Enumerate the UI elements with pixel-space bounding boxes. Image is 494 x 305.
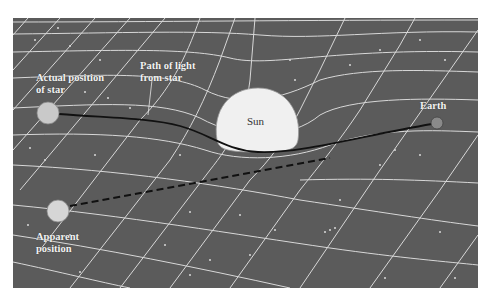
space-background [13, 18, 478, 288]
earth-label: Earth [420, 100, 446, 112]
actual-star-icon [37, 102, 59, 124]
apparent-star-icon [47, 200, 69, 222]
earth-icon [431, 117, 443, 129]
apparent-position-label: Apparent position [36, 231, 79, 255]
actual-position-label: Actual position of star [36, 72, 104, 96]
sun-label: Sun [247, 115, 264, 127]
lensing-diagram [0, 0, 494, 305]
path-of-light-label: Path of light from star [140, 60, 195, 84]
